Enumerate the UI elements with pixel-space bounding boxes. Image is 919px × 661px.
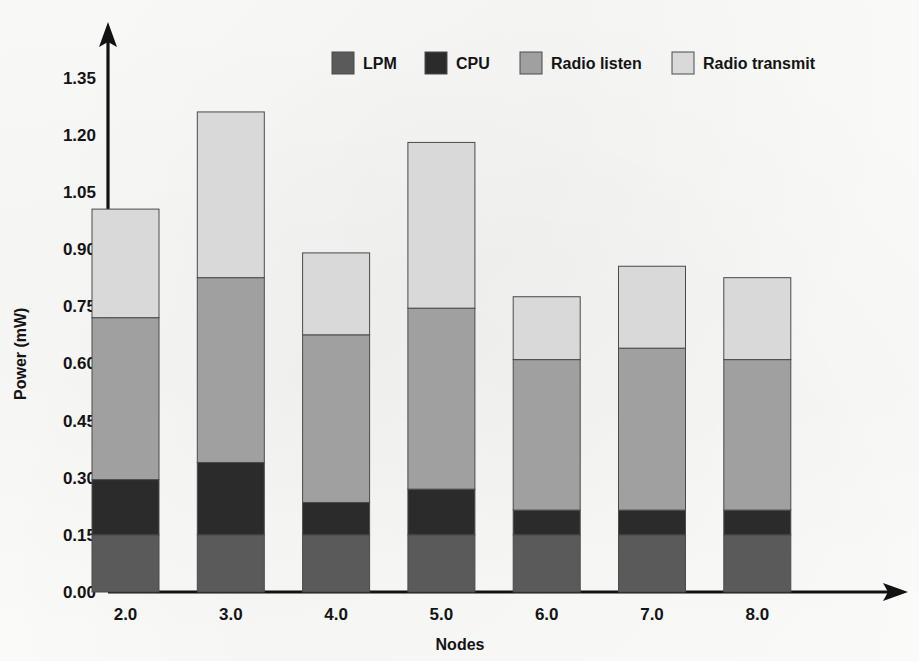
- x-tick-label: 3.0: [219, 605, 243, 624]
- y-tick-label: 1.05: [63, 183, 96, 202]
- x-tick-label: 6.0: [535, 605, 559, 624]
- y-tick-label: 0.60: [63, 354, 96, 373]
- chart-canvas: 0.000.150.300.450.600.750.901.051.201.35…: [0, 0, 919, 661]
- legend-swatch-cpu: [425, 52, 447, 74]
- x-tick-label: 2.0: [114, 605, 138, 624]
- bar-segment-lpm: [92, 535, 159, 592]
- legend-swatch-radio-transmit: [672, 52, 694, 74]
- bar-segment-radio-transmit: [408, 142, 475, 308]
- bar-stack: [92, 209, 159, 592]
- bar-stack: [408, 142, 475, 592]
- legend-label-cpu: CPU: [456, 55, 490, 72]
- bar-segment-radio-listen: [513, 360, 580, 510]
- bar-segment-cpu: [92, 480, 159, 535]
- bar-segment-radio-transmit: [197, 112, 264, 278]
- bar-segment-lpm: [408, 535, 475, 592]
- bar-segment-radio-listen: [724, 360, 791, 510]
- bar-segment-radio-listen: [92, 318, 159, 480]
- bar-stack: [513, 297, 580, 592]
- legend-swatch-radio-listen: [520, 52, 542, 74]
- bar-segment-cpu: [408, 489, 475, 535]
- chart-legend: LPMCPURadio listenRadio transmit: [332, 52, 816, 74]
- bar-segment-radio-transmit: [619, 266, 686, 348]
- x-tick-label: 5.0: [430, 605, 454, 624]
- bar-segment-radio-transmit: [724, 278, 791, 360]
- bar-segment-cpu: [513, 510, 580, 535]
- bar-segment-lpm: [303, 535, 370, 592]
- bars-group: [92, 112, 791, 592]
- bar-segment-radio-transmit: [92, 209, 159, 318]
- y-tick-label: 0.15: [63, 526, 96, 545]
- bar-segment-lpm: [197, 535, 264, 592]
- bar-stack: [303, 253, 370, 592]
- bar-segment-cpu: [724, 510, 791, 535]
- bar-segment-radio-listen: [619, 348, 686, 510]
- legend-label-radio-listen: Radio listen: [551, 55, 642, 72]
- bar-stack: [197, 112, 264, 592]
- bar-segment-radio-listen: [408, 308, 475, 489]
- bar-segment-lpm: [724, 535, 791, 592]
- bar-segment-cpu: [303, 502, 370, 534]
- y-tick-labels: 0.000.150.300.450.600.750.901.051.201.35: [63, 69, 96, 602]
- bar-segment-radio-transmit: [513, 297, 580, 360]
- y-tick-label: 0.90: [63, 240, 96, 259]
- bar-segment-radio-transmit: [303, 253, 370, 335]
- x-tick-label: 7.0: [640, 605, 664, 624]
- y-tick-label: 0.30: [63, 469, 96, 488]
- x-tick-labels: 2.03.04.05.06.07.08.0: [114, 605, 769, 624]
- y-tick-label: 0.75: [63, 297, 96, 316]
- bar-stack: [724, 278, 791, 592]
- bar-segment-radio-listen: [197, 278, 264, 463]
- x-axis-title: Nodes: [436, 636, 485, 653]
- x-tick-label: 4.0: [324, 605, 348, 624]
- bar-segment-cpu: [197, 462, 264, 534]
- y-tick-label: 1.35: [63, 69, 96, 88]
- stacked-bar-chart: 0.000.150.300.450.600.750.901.051.201.35…: [0, 0, 919, 661]
- bar-segment-radio-listen: [303, 335, 370, 503]
- legend-label-radio-transmit: Radio transmit: [703, 55, 816, 72]
- bar-stack: [619, 266, 686, 592]
- legend-swatch-lpm: [332, 52, 354, 74]
- y-tick-label: 0.00: [63, 583, 96, 602]
- y-tick-label: 0.45: [63, 412, 96, 431]
- bar-segment-lpm: [513, 535, 580, 592]
- y-tick-label: 1.20: [63, 126, 96, 145]
- bar-segment-lpm: [619, 535, 686, 592]
- legend-label-lpm: LPM: [363, 55, 397, 72]
- y-axis-title: Power (mW): [12, 308, 29, 400]
- bar-segment-cpu: [619, 510, 686, 535]
- x-tick-label: 8.0: [745, 605, 769, 624]
